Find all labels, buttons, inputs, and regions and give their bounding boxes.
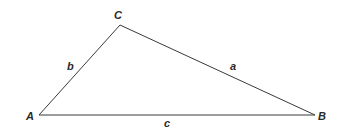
side-a-line [120, 25, 315, 115]
vertex-label-b: B [318, 111, 326, 122]
vertex-label-c: C [114, 10, 122, 21]
side-b-line [39, 25, 120, 115]
side-label-c: c [164, 118, 170, 129]
side-label-b: b [67, 61, 74, 72]
triangle-svg [0, 0, 347, 137]
vertex-label-a: A [26, 111, 34, 122]
side-label-a: a [230, 61, 236, 72]
triangle-diagram: C A B b a c [0, 0, 347, 137]
